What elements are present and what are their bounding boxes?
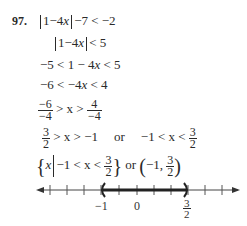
tick-label-0: 0 bbox=[134, 199, 140, 214]
tick-label-neg1: −1 bbox=[95, 199, 108, 214]
right-arrow-icon bbox=[232, 187, 240, 193]
number-line bbox=[0, 0, 247, 226]
left-arrow-icon bbox=[36, 187, 44, 193]
tick-label-3-2: 32 bbox=[183, 198, 191, 219]
